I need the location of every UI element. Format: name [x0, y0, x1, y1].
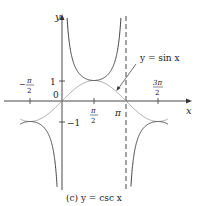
csc-chart: y x 0 1 −1 − π 2 π 2 π 3π 2 y = sin x (c…	[0, 0, 197, 206]
csc-branch-positive	[67, 18, 121, 81]
csc-branch-left	[20, 122, 57, 187]
y-axis-label: y	[54, 11, 61, 22]
x-axis-arrow-icon	[186, 99, 192, 104]
x-tick-pi-half-num: π	[90, 107, 96, 115]
annotation-leader	[118, 64, 136, 89]
x-tick-pi: π	[114, 108, 122, 118]
x-tick-neg-pi-half-den: 2	[27, 87, 31, 95]
caption: (c) y = csc x	[66, 193, 122, 203]
y-tick-1: 1	[50, 77, 56, 87]
csc-branch-right	[131, 122, 168, 187]
x-axis-label: x	[186, 105, 192, 116]
x-tick-neg-pi-half-num: π	[26, 77, 32, 85]
x-tick-pi-half-den: 2	[91, 117, 95, 125]
x-tick-3pi-half-den: 2	[155, 89, 159, 97]
x-tick-neg-pi-half-sign: −	[19, 80, 26, 89]
origin-label: 0	[53, 90, 59, 100]
x-tick-3pi-half-num: 3π	[153, 79, 162, 87]
sin-annotation-label: y = sin x	[139, 53, 180, 63]
y-tick-neg1: −1	[67, 118, 80, 128]
